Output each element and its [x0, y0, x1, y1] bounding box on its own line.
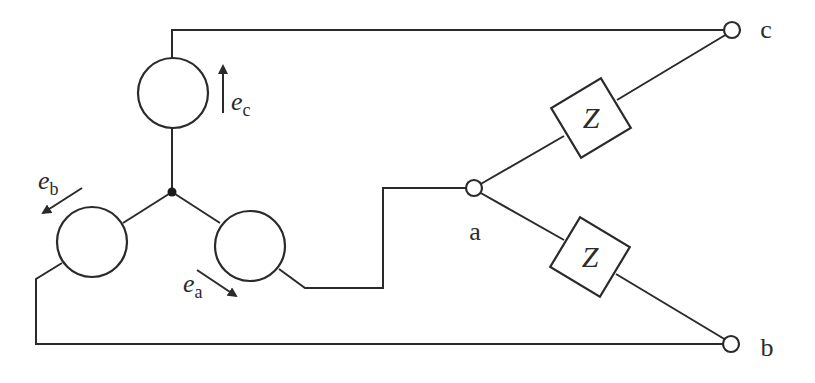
terminal-c-label: c — [760, 15, 772, 44]
circuit-diagram: ec eb ea Z Z a c b — [0, 0, 815, 383]
source-b-circle — [57, 207, 127, 277]
wire-line-c — [172, 30, 726, 58]
impedance-lower-label: Z — [582, 240, 599, 273]
source-c-circle — [138, 58, 208, 128]
impedance-upper: Z — [551, 78, 631, 158]
neutral-junction-dot — [168, 188, 177, 197]
wire-a-z1 — [479, 136, 564, 185]
terminal-b — [723, 336, 739, 352]
source-a-circle — [215, 211, 285, 281]
impedance-upper-label: Z — [583, 101, 600, 134]
terminal-b-label: b — [761, 333, 774, 362]
wires — [36, 30, 727, 344]
wire-line-b — [36, 263, 725, 344]
wire-z1-c — [617, 34, 727, 100]
wire-z2-b — [616, 274, 726, 340]
terminal-c — [724, 22, 740, 38]
impedance-lower: Z — [550, 217, 630, 297]
wire-b-neutral — [123, 192, 172, 223]
terminal-a — [466, 180, 482, 196]
emf-c-label: ec — [231, 87, 251, 120]
wire-a-neutral — [172, 192, 220, 223]
wire-line-a — [279, 188, 468, 288]
emf-a-label: ea — [183, 269, 203, 302]
emf-b-label: eb — [38, 166, 59, 199]
wire-a-z2 — [479, 192, 564, 240]
terminal-a-label: a — [469, 217, 481, 246]
